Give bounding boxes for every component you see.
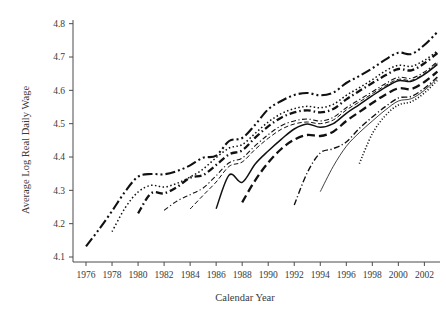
- y-tick-label: 4.1: [53, 252, 65, 262]
- y-axis-ticks: 4.14.24.34.44.54.64.74.8: [53, 19, 73, 262]
- y-tick-label: 4.5: [53, 119, 65, 129]
- x-tick-label: 1976: [77, 270, 96, 280]
- x-tick-label: 1988: [233, 270, 252, 280]
- x-tick-label: 1978: [103, 270, 122, 280]
- x-tick-label: 1998: [363, 270, 382, 280]
- y-axis-title: Average Log Real Daily Wage: [20, 86, 31, 215]
- series-lines: [86, 32, 437, 246]
- series-line-cohort-1986: [216, 64, 437, 208]
- x-tick-label: 1982: [155, 270, 174, 280]
- series-line-cohort-1988: [242, 72, 437, 203]
- y-tick-label: 4.7: [53, 52, 65, 62]
- series-line-cohort-1994: [320, 78, 437, 191]
- x-tick-label: 1996: [337, 270, 356, 280]
- y-tick-label: 4.4: [53, 152, 65, 162]
- y-tick-label: 4.6: [53, 86, 65, 96]
- series-line-cohort-1978: [112, 51, 437, 232]
- x-tick-label: 1984: [181, 270, 200, 280]
- x-axis-ticks: 1976197819801982198419861988199019921994…: [77, 262, 435, 280]
- axis-frame: [73, 20, 440, 262]
- x-tick-label: 1980: [129, 270, 148, 280]
- line-chart: 4.14.24.34.44.54.64.74.8 197619781980198…: [0, 0, 446, 314]
- y-tick-label: 4.3: [53, 186, 65, 196]
- x-tick-label: 1990: [259, 270, 278, 280]
- x-tick-label: 1986: [207, 270, 226, 280]
- y-tick-label: 4.8: [53, 19, 65, 29]
- x-tick-label: 1992: [285, 270, 304, 280]
- x-tick-label: 2000: [389, 270, 408, 280]
- x-tick-label: 1994: [311, 270, 330, 280]
- chart-container: 4.14.24.34.44.54.64.74.8 197619781980198…: [0, 0, 446, 314]
- axis-lines: [73, 20, 440, 262]
- series-line-cohort-1976: [86, 32, 437, 246]
- y-tick-label: 4.2: [53, 219, 65, 229]
- x-tick-label: 2002: [415, 270, 434, 280]
- x-axis-title: Calendar Year: [215, 292, 275, 303]
